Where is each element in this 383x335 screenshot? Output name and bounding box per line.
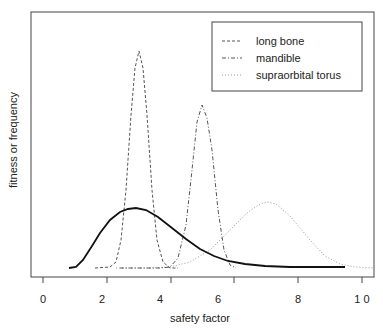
legend-label-mandible: mandible [256, 52, 301, 64]
series-supraorbital-torus [116, 202, 374, 268]
chart: 0 2 4 6 8 1 0 safety factor fitness or f… [0, 0, 383, 335]
x-tick-label: 1 0 [354, 293, 369, 305]
series-mandible [120, 105, 236, 268]
x-tick-label: 2 [99, 293, 105, 305]
x-tick-label: 0 [40, 293, 46, 305]
x-tick-label: 6 [215, 293, 221, 305]
legend: long bone mandible supraorbital torus [212, 22, 362, 91]
y-axis-label: fitness or frequency [7, 92, 19, 188]
series-long-bone [95, 51, 178, 268]
x-axis-label: safety factor [170, 312, 230, 324]
x-tick-label: 4 [157, 293, 163, 305]
legend-label-supraorbital-torus: supraorbital torus [256, 69, 341, 81]
x-tick-label: 8 [295, 293, 301, 305]
x-axis-tick-labels: 0 2 4 6 8 1 0 [40, 293, 370, 305]
series-fitness [69, 208, 345, 268]
x-axis-ticks [43, 277, 362, 283]
legend-label-long-bone: long bone [256, 35, 304, 47]
